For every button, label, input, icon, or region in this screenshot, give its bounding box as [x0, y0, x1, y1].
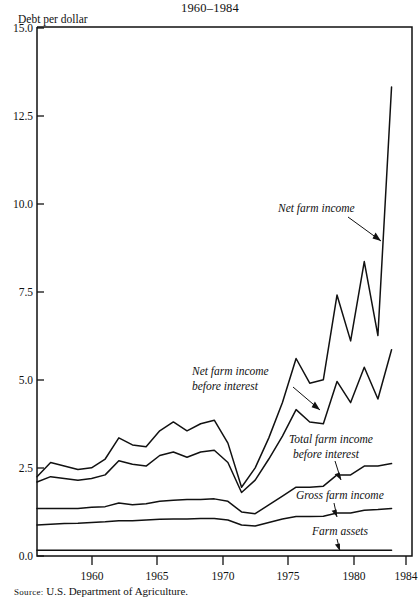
annotation-total-farm-income-before-interest: Total farm income before interest: [289, 433, 373, 480]
x-tick-marks: [92, 556, 406, 565]
plot-frame: [37, 27, 412, 556]
series-line-net-farm-income: [37, 87, 392, 487]
y-tick-marks: [37, 28, 44, 556]
x-tick-label-1960: 1960: [81, 570, 104, 582]
annotation-label-tfi-before-interest-line1: Total farm income: [289, 433, 373, 446]
y-tick-label-0: 0.0: [19, 550, 34, 562]
x-tick-labels: 1960 1965 1970 1975 1980 1984: [81, 570, 418, 582]
y-tick-label-2-5: 2.5: [19, 462, 34, 474]
annotation-farm-assets: Farm assets: [311, 525, 368, 551]
figure-container: 1960–1984 Debt per dollar 15.0 12.5 10.0…: [0, 0, 420, 602]
x-tick-label-1970: 1970: [212, 570, 235, 582]
annotation-net-farm-income: Net farm income: [277, 202, 381, 241]
y-axis-label: Debt per dollar: [18, 13, 88, 25]
source-prefix: Source:: [14, 587, 44, 597]
source-text: U.S. Department of Agriculture.: [46, 585, 188, 597]
y-tick-label-10: 10.0: [13, 198, 33, 210]
chart-svg: 15.0 12.5 10.0 7.5 5.0 2.5 0.0 1960 1965…: [0, 0, 420, 602]
x-tick-label-1984: 1984: [395, 570, 418, 582]
annotation-label-nfi-before-interest-line2: before interest: [192, 380, 259, 393]
annotation-label-farm-assets: Farm assets: [311, 525, 368, 537]
annotation-label-tfi-before-interest-line2: before interest: [293, 448, 360, 461]
arrowhead-gross-farm-income: [332, 510, 337, 518]
y-tick-label-7-5: 7.5: [19, 286, 34, 298]
source-note: Source: U.S. Department of Agriculture.: [14, 585, 188, 597]
annotation-label-gross-farm-income: Gross farm income: [296, 489, 384, 502]
arrowhead-net-farm-income: [373, 233, 382, 241]
x-tick-label-1965: 1965: [146, 570, 169, 582]
x-tick-label-1980: 1980: [343, 570, 366, 582]
x-tick-label-1975: 1975: [277, 570, 300, 582]
annotation-label-nfi-before-interest-line1: Net farm income: [191, 365, 269, 378]
annotation-net-farm-income-before-interest: Net farm income before interest: [191, 365, 320, 410]
data-curves: [37, 87, 392, 550]
y-tick-labels: 15.0 12.5 10.0 7.5 5.0 2.5 0.0: [13, 22, 33, 562]
annotation-label-net-farm-income: Net farm income: [277, 202, 355, 215]
y-tick-label-12-5: 12.5: [13, 110, 33, 122]
y-tick-label-5: 5.0: [19, 374, 34, 386]
arrowhead-nfi-before-interest: [312, 402, 320, 411]
series-line-gross-farm-income: [37, 508, 392, 526]
